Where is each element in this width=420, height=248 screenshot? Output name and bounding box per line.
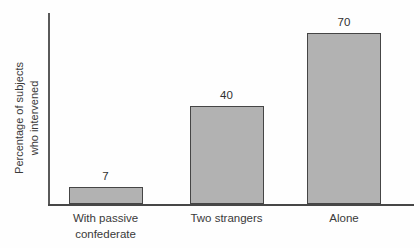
bar-1 bbox=[69, 187, 143, 204]
bar-chart: Percentage of subjects who intervened 7W… bbox=[0, 0, 420, 248]
bar-2 bbox=[190, 106, 264, 204]
bar-value-label-2: 40 bbox=[207, 89, 247, 101]
bar-value-label-1: 7 bbox=[86, 170, 126, 182]
bar-3 bbox=[307, 33, 381, 204]
category-label-1: With passive confederate bbox=[54, 210, 158, 242]
plot-area: 7With passive confederate40Two strangers… bbox=[0, 0, 420, 248]
category-label-2: Two strangers bbox=[175, 210, 279, 226]
category-label-3: Alone bbox=[292, 210, 396, 226]
x-axis-line bbox=[48, 204, 414, 206]
bar-value-label-3: 70 bbox=[324, 16, 364, 28]
y-axis-line bbox=[48, 13, 50, 206]
